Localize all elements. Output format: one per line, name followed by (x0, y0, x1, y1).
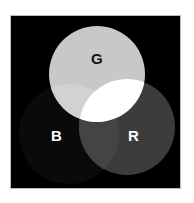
venn-circles (11, 16, 181, 189)
label-b: B (51, 128, 62, 143)
label-r: R (128, 128, 139, 143)
label-g: G (91, 51, 103, 66)
rgb-venn-diagram: G B R (10, 15, 181, 189)
